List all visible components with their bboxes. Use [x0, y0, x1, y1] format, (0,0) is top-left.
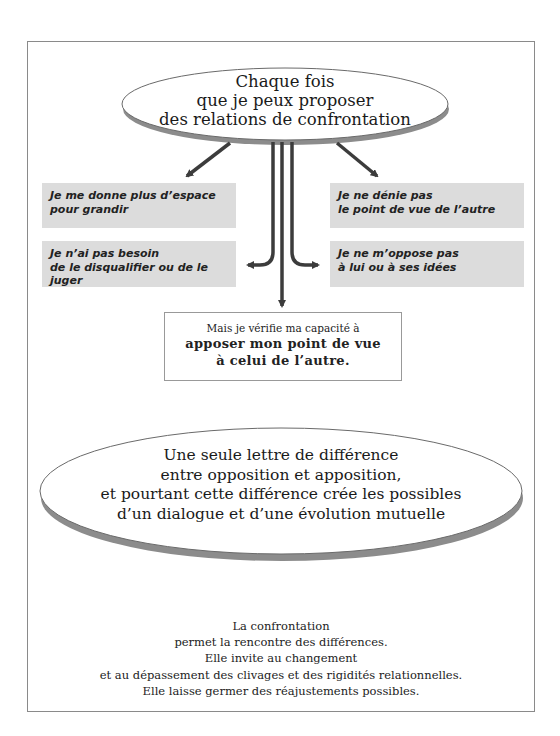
- box-line: pour grandir: [50, 203, 228, 217]
- arrow-right-diagonal: [337, 143, 377, 176]
- footer-line: et au dépassement des clivages et des ri…: [40, 667, 522, 683]
- center-box-intro: Mais je vérifie ma capacité à: [165, 321, 401, 335]
- bottom-ellipse-line: et pourtant cette différence crée les po…: [40, 485, 522, 505]
- top-ellipse-line: des relations de confrontation: [122, 110, 448, 129]
- center-box-emphasis: à celui de l’autre.: [165, 352, 401, 369]
- top-ellipse-text: Chaque fois que je peux proposer des rel…: [122, 72, 448, 129]
- box-left-bottom: Je n’ai pas besoin de le disqualifier ou…: [42, 241, 236, 287]
- box-right-top: Je ne dénie pas le point de vue de l’aut…: [330, 183, 524, 228]
- box-line: Je ne m’oppose pas: [338, 247, 516, 261]
- footer-line: La confrontation: [40, 618, 522, 634]
- box-right-bottom: Je ne m’oppose pas à lui ou à ses idées: [330, 241, 524, 287]
- footer-line: permet la rencontre des différences.: [40, 634, 522, 650]
- footer-text: La confrontation permet la rencontre des…: [40, 618, 522, 699]
- bottom-ellipse-text: Une seule lettre de différence entre opp…: [40, 446, 522, 524]
- top-ellipse-line: Chaque fois: [122, 72, 448, 91]
- box-line: à lui ou à ses idées: [338, 261, 516, 275]
- top-ellipse-line: que je peux proposer: [122, 91, 448, 110]
- center-box: Mais je vérifie ma capacité à apposer mo…: [164, 312, 402, 381]
- box-line: Je me donne plus d’espace: [50, 189, 228, 203]
- box-line: Je ne dénie pas: [338, 189, 516, 203]
- box-line: Je n’ai pas besoin: [50, 247, 228, 261]
- bottom-ellipse-line: d’un dialogue et d’une évolution mutuell…: [40, 505, 522, 525]
- footer-line: Elle laisse germer des réajustements pos…: [40, 683, 522, 699]
- box-line: le point de vue de l’autre: [338, 203, 516, 217]
- box-line: de le disqualifier ou de le juger: [50, 261, 228, 288]
- bottom-ellipse-line: entre opposition et apposition,: [40, 466, 522, 486]
- footer-line: Elle invite au changement: [40, 650, 522, 666]
- bottom-ellipse-line: Une seule lettre de différence: [40, 446, 522, 466]
- box-left-top: Je me donne plus d’espace pour grandir: [42, 183, 236, 228]
- center-box-emphasis: apposer mon point de vue: [165, 335, 401, 352]
- arrow-left-diagonal: [187, 143, 230, 176]
- arrow-right-curve: [292, 142, 318, 265]
- arrow-left-curve: [248, 142, 273, 265]
